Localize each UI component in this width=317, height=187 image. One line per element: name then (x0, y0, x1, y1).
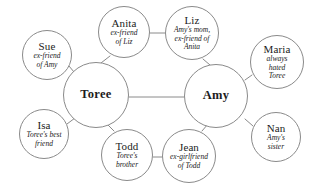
node-todd[interactable]: ToddToree's brother (101, 129, 153, 181)
node-toree-name: Toree (80, 89, 111, 101)
node-isa-description: Toree's best friend (23, 131, 64, 148)
node-liz-description: Amy's mom, ex-friend of Anita (171, 26, 213, 51)
node-liz[interactable]: LizAmy's mom, ex-friend of Anita (165, 6, 219, 60)
node-jean[interactable]: Jeanex-girlfriend of Todd (162, 129, 216, 183)
node-sue[interactable]: Sueex-friend of Amy (22, 30, 72, 80)
node-amy[interactable]: Amy (184, 64, 248, 128)
node-todd-description: Toree's brother (113, 152, 141, 169)
node-maria[interactable]: Mariaalways hated Toree (250, 35, 304, 89)
node-amy-name: Amy (203, 90, 230, 102)
node-nan[interactable]: NanAmy's sister (251, 112, 301, 162)
node-maria-description: always hated Toree (264, 55, 291, 80)
connector-maria-amy (245, 75, 252, 80)
node-jean-description: ex-girlfriend of Todd (167, 153, 211, 170)
node-anita-description: ex-friend of Liz (107, 29, 140, 46)
connector-nan-amy (245, 119, 253, 126)
social-network-diagram: Anitaex-friend of LizLizAmy's mom, ex-fr… (0, 0, 317, 187)
node-isa[interactable]: IsaToree's best friend (19, 109, 69, 159)
node-anita[interactable]: Anitaex-friend of Liz (98, 6, 150, 58)
node-nan-description: Amy's sister (264, 134, 288, 151)
node-toree[interactable]: Toree (63, 62, 129, 128)
node-sue-description: ex-friend of Amy (30, 52, 63, 69)
